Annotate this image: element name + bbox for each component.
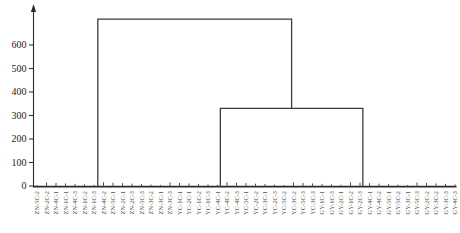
leaf-label: YC-2C-1: [185, 191, 192, 215]
leaf-label: GY-4C-3: [451, 191, 458, 214]
leaf-label: ZN-1C-2: [81, 191, 88, 214]
leaf-label: YC-2C-2: [252, 191, 259, 215]
leaf-label: ZN-5C-3: [138, 191, 145, 214]
leaf-label: ZN-4C-2: [100, 191, 107, 214]
dendrogram-figure: 0100200300400500600ZN-5C-2ZN-2C-2ZN-4C-1…: [0, 0, 460, 233]
leaf-label: GY-2C-2: [423, 191, 430, 214]
leaf-label: YC-2C-3: [271, 191, 278, 215]
leaf-label: ZN-2C-1: [119, 191, 126, 214]
leaf-label: ZN-4C-1: [52, 191, 59, 214]
leaf-label: ZN-2C-3: [128, 191, 135, 214]
leaf-label: YC-1C-3: [204, 191, 211, 215]
leaf-label: YC-5C-1: [242, 191, 249, 215]
leaf-label: GY-5C-3: [413, 191, 420, 214]
leaf-label: YC-4C-2: [223, 191, 230, 215]
leaf-label: ZN-2C-2: [43, 191, 50, 214]
y-tick-label: 500: [12, 63, 27, 74]
leaf-label: GY-1C-1: [318, 191, 325, 214]
y-tick-label: 0: [22, 180, 27, 191]
leaf-label: YC-1C-1: [176, 191, 183, 215]
leaf-label: GY-4C-2: [375, 191, 382, 214]
leaf-label: GY-2C-3: [356, 191, 363, 214]
leaf-label: YC-3C-2: [290, 191, 297, 215]
leaf-label: ZN-4C-3: [71, 191, 78, 214]
y-tick-label: 400: [12, 86, 27, 97]
leaf-label: YC-4C-1: [214, 191, 221, 215]
leaf-label: ZN-1C-3: [90, 191, 97, 214]
leaf-label: YC-3C-3: [309, 191, 316, 215]
leaf-label: GY-5C-1: [385, 191, 392, 214]
y-tick-label: 100: [12, 157, 27, 168]
leaf-label: ZN-1C-1: [62, 191, 69, 214]
leaf-label: YC-3C-1: [261, 191, 268, 215]
leaf-label: YC-4C-3: [233, 191, 240, 215]
leaf-label: ZN-3C-2: [147, 191, 154, 214]
leaf-label: YC-1C-2: [195, 191, 202, 215]
leaf-label: ZN-3C-1: [157, 191, 164, 214]
dendrogram-chart: 0100200300400500600ZN-5C-2ZN-2C-2ZN-4C-1…: [0, 0, 460, 233]
y-tick-label: 600: [12, 39, 27, 50]
leaf-label: GY-1C-2: [347, 191, 354, 214]
leaf-label: ZN-5C-1: [109, 191, 116, 214]
leaf-label: GY-3C-2: [432, 191, 439, 214]
leaf-label: ZN-3C-3: [166, 191, 173, 214]
leaf-label: YC-5C-3: [299, 191, 306, 215]
y-tick-label: 200: [12, 133, 27, 144]
leaf-label: GY-3C-3: [442, 191, 449, 214]
leaf-label: GY-3C-1: [404, 191, 411, 214]
leaf-label: GY-5C-2: [394, 191, 401, 214]
leaf-label: GY-1C-3: [328, 191, 335, 214]
leaf-label: ZN-5C-2: [33, 191, 40, 214]
cluster-link-top: [98, 19, 292, 187]
cluster-link-yc-gy: [220, 108, 363, 187]
leaf-label: GY-4C-1: [366, 191, 373, 214]
y-axis-arrow-icon: [31, 4, 36, 12]
leaf-label: GY-2C-1: [337, 191, 344, 214]
y-tick-label: 300: [12, 110, 27, 121]
leaf-label: YC-5C-2: [280, 191, 287, 215]
